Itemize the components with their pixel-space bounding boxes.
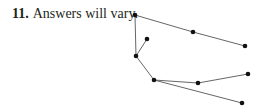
graph-edge [135,15,193,32]
graph-edge [193,32,245,46]
graph-vertex [145,37,150,42]
graph-vertex [152,78,157,83]
graph-edge [136,39,147,56]
graph-vertex [246,72,251,77]
graph-edge [198,74,248,83]
graph-vertex [196,81,201,86]
graph-edge [135,15,136,56]
graph-vertex [133,13,138,18]
graph-nodes [133,13,251,106]
graph-vertex [191,30,196,35]
graph-vertex [134,54,139,59]
tree-graph [0,0,263,108]
graph-edge [136,56,154,80]
graph-edges [135,15,248,103]
graph-vertex [243,44,248,49]
graph-vertex [240,101,245,106]
